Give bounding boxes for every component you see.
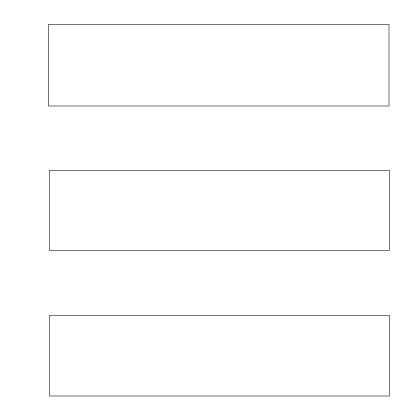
pacf-plot bbox=[50, 316, 390, 397]
plot-box bbox=[49, 25, 390, 107]
acf-plot bbox=[50, 171, 390, 251]
chart-canvas bbox=[0, 0, 410, 411]
index-plot bbox=[49, 25, 390, 107]
plot-box bbox=[50, 171, 390, 251]
plot-box bbox=[50, 316, 390, 397]
